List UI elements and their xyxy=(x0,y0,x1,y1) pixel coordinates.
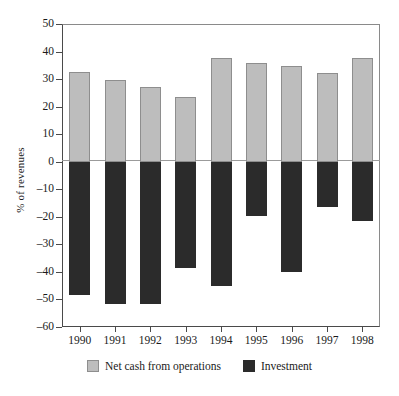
x-axis-tick xyxy=(115,327,116,332)
legend-label: Investment xyxy=(261,360,312,372)
y-axis-label-wrap: 30 xyxy=(0,73,54,84)
y-axis-label-wrap: 0 xyxy=(0,156,54,167)
y-axis-label-wrap: 50 xyxy=(0,18,54,29)
y-axis-label-wrap: –60 xyxy=(0,321,54,332)
x-axis-tick xyxy=(292,327,293,332)
bar-net-cash-from-operations xyxy=(140,87,161,161)
bar-net-cash-from-operations xyxy=(105,80,126,162)
y-axis-label: –60 xyxy=(2,321,54,332)
bar-group xyxy=(175,24,196,327)
y-axis-label-wrap: –30 xyxy=(0,238,54,249)
bar-net-cash-from-operations xyxy=(317,73,338,162)
bar-investment xyxy=(105,162,126,305)
bar-investment xyxy=(317,162,338,207)
bar-net-cash-from-operations xyxy=(69,72,90,161)
y-axis-label: 40 xyxy=(2,46,54,57)
y-axis-label: –50 xyxy=(2,293,54,304)
bar-investment xyxy=(69,162,90,296)
bar-group xyxy=(352,24,373,327)
y-axis-label-wrap: 10 xyxy=(0,128,54,139)
bar-investment xyxy=(175,162,196,268)
bar-net-cash-from-operations xyxy=(175,97,196,162)
bar-net-cash-from-operations xyxy=(352,58,373,162)
bars-layer xyxy=(62,24,380,327)
legend-item: Net cash from operations xyxy=(87,360,221,372)
y-axis-label-wrap: –20 xyxy=(0,211,54,222)
bar-net-cash-from-operations xyxy=(211,58,232,162)
x-axis-tick xyxy=(256,327,257,332)
legend-item: Investment xyxy=(243,360,312,372)
legend-swatch-ops xyxy=(87,360,99,372)
bar-investment xyxy=(140,162,161,305)
bar-chart: % of revenues 50403020100–10–20–30–40–50… xyxy=(0,0,399,396)
bar-group xyxy=(246,24,267,327)
y-axis-label: –20 xyxy=(2,211,54,222)
y-axis-label-wrap: 20 xyxy=(0,101,54,112)
bar-investment xyxy=(352,162,373,221)
bar-investment xyxy=(281,162,302,272)
bar-group xyxy=(105,24,126,327)
bar-net-cash-from-operations xyxy=(281,66,302,161)
y-axis-label-wrap: –10 xyxy=(0,183,54,194)
bar-investment xyxy=(211,162,232,286)
y-axis-label-wrap: –40 xyxy=(0,266,54,277)
y-axis-label: –30 xyxy=(2,238,54,249)
x-axis-tick xyxy=(150,327,151,332)
y-axis-label: 10 xyxy=(2,128,54,139)
y-axis-label: –10 xyxy=(2,183,54,194)
chart-legend: Net cash from operationsInvestment xyxy=(0,360,399,372)
y-axis-label-wrap: 40 xyxy=(0,46,54,57)
y-axis-label: 20 xyxy=(2,101,54,112)
x-axis-label: 1998 xyxy=(340,334,384,347)
bar-group xyxy=(281,24,302,327)
y-axis-label: 0 xyxy=(2,156,54,167)
y-axis-label: –40 xyxy=(2,266,54,277)
x-axis-tick xyxy=(221,327,222,332)
bar-group xyxy=(69,24,90,327)
x-axis-tick xyxy=(327,327,328,332)
legend-label: Net cash from operations xyxy=(105,360,221,372)
bar-group xyxy=(140,24,161,327)
legend-swatch-inv xyxy=(243,360,255,372)
bar-net-cash-from-operations xyxy=(246,63,267,162)
bar-group xyxy=(211,24,232,327)
y-axis-label-wrap: –50 xyxy=(0,293,54,304)
y-axis-label: 30 xyxy=(2,73,54,84)
bar-investment xyxy=(246,162,267,217)
y-axis-tick xyxy=(56,327,62,328)
bar-group xyxy=(317,24,338,327)
x-axis-tick xyxy=(80,327,81,332)
y-axis-label: 50 xyxy=(2,18,54,29)
x-axis-tick xyxy=(186,327,187,332)
x-axis-tick xyxy=(362,327,363,332)
